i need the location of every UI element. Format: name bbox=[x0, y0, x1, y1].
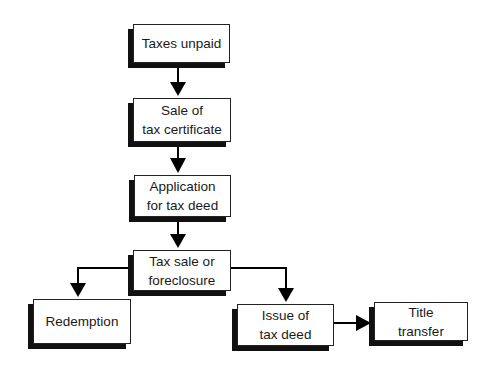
arrow-sale-to-application bbox=[170, 146, 186, 173]
arrow-taxes-unpaid-to-sale bbox=[170, 66, 186, 96]
node-label: Sale of tax certificate bbox=[142, 101, 222, 139]
node-application-for-tax-deed: Application for tax deed bbox=[134, 175, 231, 217]
arrow-tax-sale-to-issue bbox=[231, 268, 294, 302]
node-tax-sale-or-foreclosure: Tax sale or foreclosure bbox=[133, 250, 231, 291]
arrowhead-icon bbox=[278, 288, 294, 302]
flowchart-canvas: Taxes unpaid Sale of tax certificate App… bbox=[0, 0, 496, 370]
node-taxes-unpaid: Taxes unpaid bbox=[133, 24, 230, 63]
node-issue-of-tax-deed: Issue of tax deed bbox=[237, 304, 334, 346]
arrowhead-icon bbox=[356, 315, 371, 331]
arrowhead-icon bbox=[170, 158, 186, 173]
arrowhead-icon bbox=[170, 234, 186, 248]
arrowhead-icon bbox=[170, 82, 186, 96]
arrow-issue-to-title-transfer bbox=[334, 315, 371, 331]
node-label: Redemption bbox=[46, 312, 119, 331]
node-label: Title transfer bbox=[398, 303, 444, 341]
node-label: Taxes unpaid bbox=[142, 34, 222, 53]
node-title-transfer: Title transfer bbox=[374, 302, 468, 341]
node-redemption: Redemption bbox=[33, 299, 131, 344]
node-label: Issue of tax deed bbox=[260, 306, 312, 344]
node-label: Application for tax deed bbox=[147, 177, 218, 215]
node-sale-of-tax-certificate: Sale of tax certificate bbox=[133, 98, 231, 142]
arrowhead-icon bbox=[70, 283, 86, 297]
arrow-tax-sale-to-redemption bbox=[70, 268, 133, 297]
node-label: Tax sale or foreclosure bbox=[149, 252, 216, 290]
arrow-application-to-tax-sale bbox=[170, 220, 186, 248]
